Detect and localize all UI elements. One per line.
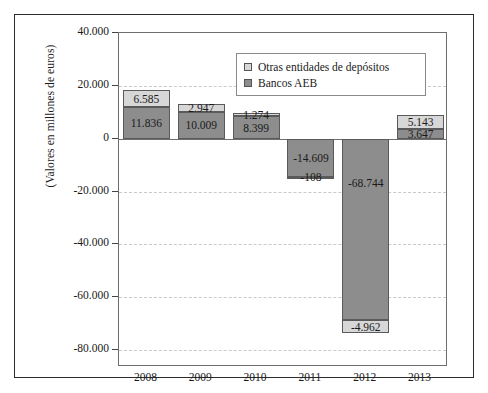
bar-group-2009[interactable]: 10.0092.947 <box>178 33 225 365</box>
bar-value-label: 8.399 <box>233 122 280 134</box>
y-tick-label: -40.000 <box>37 237 109 248</box>
legend-swatch-icon <box>244 79 252 87</box>
x-tick-label-2012: 2012 <box>335 371 395 383</box>
legend-item[interactable]: Otras entidades de depósitos <box>244 59 418 74</box>
bar-value-label: 10.009 <box>178 119 225 131</box>
legend-swatch-icon <box>244 63 252 71</box>
chart-legend: Otras entidades de depósitosBancos AEB <box>236 53 426 96</box>
figure-frame: (Valores en millones de euros) 40.00020.… <box>14 14 474 378</box>
legend-label: Bancos AEB <box>258 77 317 89</box>
x-tick-label-2011: 2011 <box>280 371 340 383</box>
y-tick-label: 20.000 <box>37 79 109 90</box>
x-tick-label-2008: 2008 <box>115 371 175 383</box>
bar-value-label: 3.647 <box>397 128 444 140</box>
plot-area: 11.8366.58510.0092.9478.3991.274-14.609-… <box>118 32 447 366</box>
bar-value-label: -14.609 <box>287 152 334 164</box>
x-tick-label-2013: 2013 <box>390 371 450 383</box>
bar-segment[interactable] <box>342 139 389 321</box>
bar-value-label: -108 <box>287 171 334 183</box>
bar-value-label: 6.585 <box>123 93 170 105</box>
bar-value-label: 11.836 <box>123 117 170 129</box>
bar-value-label: -68.744 <box>342 177 389 189</box>
y-tick-label: 40.000 <box>37 26 109 37</box>
y-tick-label: 0 <box>37 132 109 143</box>
bar-value-label: -4.962 <box>342 321 389 333</box>
x-tick-label-2009: 2009 <box>170 371 230 383</box>
y-tick-label: -60.000 <box>37 290 109 301</box>
bar-value-label: 5.143 <box>397 116 444 128</box>
legend-item[interactable]: Bancos AEB <box>244 75 418 90</box>
legend-label: Otras entidades de depósitos <box>258 61 389 73</box>
bar-value-label: 2.947 <box>178 102 225 114</box>
y-tick-label: -20.000 <box>37 185 109 196</box>
bar-group-2008[interactable]: 11.8366.585 <box>123 33 170 365</box>
bar-value-label: 1.274 <box>233 109 280 121</box>
x-tick-label-2010: 2010 <box>225 371 285 383</box>
y-tick-label: -80.000 <box>37 343 109 354</box>
